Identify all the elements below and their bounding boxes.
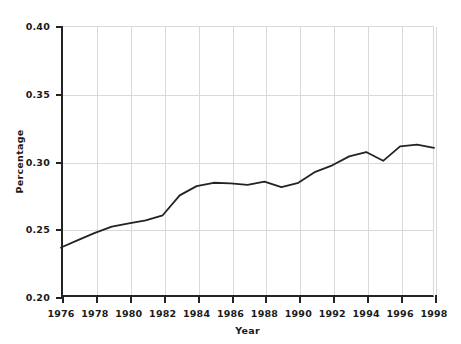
- series-line-percentage: [61, 145, 434, 248]
- data-series-layer: [0, 0, 461, 344]
- line-chart: Percentage Year 0.200.250.300.350.40 197…: [0, 0, 461, 344]
